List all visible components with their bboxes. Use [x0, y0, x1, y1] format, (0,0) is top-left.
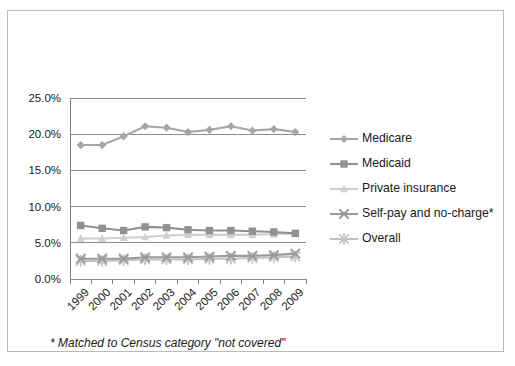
- x-axis-tick-label: 2003: [150, 286, 177, 313]
- square-marker: [184, 226, 191, 233]
- square-marker: [227, 227, 234, 234]
- x-axis-tick-label: 2004: [172, 286, 199, 313]
- diamond-marker: [120, 132, 128, 140]
- legend-label: Medicare: [362, 131, 412, 145]
- diamond-marker: [141, 122, 149, 130]
- x-axis-tick-label: 2002: [129, 286, 156, 313]
- x-axis-tick-label: 2007: [236, 286, 263, 313]
- diamond-marker: [184, 128, 192, 136]
- legend-label: Medicaid: [362, 156, 411, 170]
- x-axis-tick-label: 1999: [65, 286, 92, 313]
- y-axis-tick-label: 15.0%: [28, 164, 61, 176]
- diamond-marker: [98, 141, 106, 149]
- legend-item[interactable]: Self-pay and no-charge*: [330, 206, 494, 220]
- diamond-marker: [227, 122, 235, 130]
- legend-label: Self-pay and no-charge*: [362, 206, 494, 220]
- x-axis-tick-label: 2000: [86, 286, 113, 313]
- chart-footnote: * Matched to Census category "not covere…: [50, 336, 285, 350]
- square-marker: [340, 160, 347, 167]
- legend-item[interactable]: Private insurance: [330, 181, 456, 195]
- diamond-marker: [270, 125, 278, 133]
- y-axis-tick-label: 20.0%: [28, 128, 61, 140]
- square-marker: [163, 224, 170, 231]
- legend-label: Overall: [362, 231, 401, 245]
- x-axis-tick-label: 2005: [193, 286, 220, 313]
- chart-figure-frame: 0.0%5.0%10.0%15.0%20.0%25.0%199920002001…: [7, 10, 504, 352]
- square-marker: [270, 228, 277, 235]
- x-axis-tick-label: 2001: [107, 286, 134, 313]
- y-axis-tick-label: 10.0%: [28, 201, 61, 213]
- x-axis-tick-label: 2008: [258, 286, 285, 313]
- x-axis-tick-label: 2009: [279, 286, 306, 313]
- chart-plot-area: 0.0%5.0%10.0%15.0%20.0%25.0%199920002001…: [8, 11, 504, 352]
- legend-item[interactable]: Overall: [330, 231, 401, 245]
- y-axis-tick-label: 0.0%: [35, 273, 61, 285]
- diamond-marker: [77, 141, 85, 149]
- diamond-marker: [248, 126, 256, 134]
- legend-item[interactable]: Medicaid: [330, 156, 411, 170]
- y-axis-tick-label: 5.0%: [35, 237, 61, 249]
- square-marker: [141, 223, 148, 230]
- square-marker: [249, 228, 256, 235]
- line-chart: 0.0%5.0%10.0%15.0%20.0%25.0%199920002001…: [8, 11, 504, 352]
- legend-item[interactable]: Medicare: [330, 131, 412, 145]
- legend-label: Private insurance: [362, 181, 456, 195]
- square-marker: [206, 227, 213, 234]
- square-marker: [77, 222, 84, 229]
- square-marker: [98, 225, 105, 232]
- diamond-marker: [205, 126, 213, 134]
- diamond-marker: [340, 135, 348, 143]
- diamond-marker: [162, 124, 170, 132]
- diamond-marker: [291, 128, 299, 136]
- square-marker: [120, 227, 127, 234]
- square-marker: [292, 230, 299, 237]
- x-axis-tick-label: 2006: [215, 286, 242, 313]
- y-axis-tick-label: 25.0%: [28, 92, 61, 104]
